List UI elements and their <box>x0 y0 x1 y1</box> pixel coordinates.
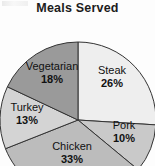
pie-slice-steak <box>78 42 155 125</box>
pie-plot-area: Steak 26% Pork 10% Chicken 33% Turkey 13… <box>0 0 155 166</box>
pie-slices <box>0 42 155 166</box>
pie-svg <box>0 0 155 166</box>
pie-chart-figure: Meals Served Steak 26% Pork 10% Chicken … <box>0 0 155 166</box>
